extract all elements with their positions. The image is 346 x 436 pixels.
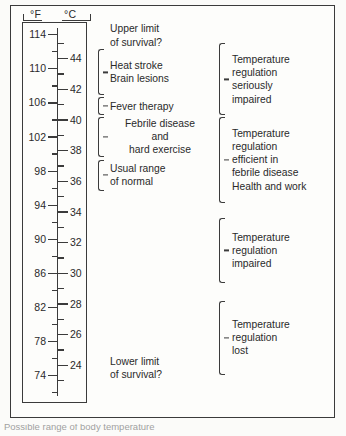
annotation-fever-therapy: Fever therapy (110, 100, 210, 113)
brace-temperature-regulation-impaired (219, 218, 225, 282)
annotation-temperature-regulation-seriously-impaire: Temperature regulation seriously impaire… (232, 53, 332, 106)
tick-f-minor-96 (52, 188, 58, 189)
tick-f-110 (48, 68, 58, 69)
tick-c-42 (58, 89, 68, 90)
tick-f-minor-72 (52, 392, 58, 393)
tick-label-c-40: 40 (70, 115, 92, 126)
tick-f-90 (48, 239, 58, 240)
annotation-temperature-regulation-impaired: Temperature regulation impaired (232, 231, 332, 271)
tick-label-f-114: 114 (22, 29, 46, 40)
tick-label-f-82: 82 (22, 302, 46, 313)
brace-fever-therapy (98, 97, 104, 115)
tick-c-44 (58, 58, 68, 59)
annotation-heat-stroke-brain-lesions: Heat stroke Brain lesions (110, 59, 210, 85)
tick-f-98 (48, 171, 58, 172)
tick-c-minor-33 (58, 227, 64, 228)
tick-f-minor-100 (52, 153, 58, 154)
tick-c-minor-37 (58, 165, 64, 166)
tick-c-minor-31 (58, 257, 64, 258)
annotation-lower-limit-of-survival: Lower limit of survival? (110, 355, 210, 381)
tick-f-74 (48, 375, 58, 376)
unit-label-fahrenheit: °F (30, 8, 41, 20)
tick-f-86 (48, 273, 58, 274)
tick-c-36 (58, 181, 68, 182)
tick-c-40 (58, 119, 68, 120)
tick-label-f-90: 90 (22, 234, 46, 245)
figure-caption-strip: Possible range of body temperature (0, 424, 346, 436)
tick-c-minor-45 (58, 43, 64, 44)
tick-label-f-94: 94 (22, 200, 46, 211)
brace-temperature-regulation-lost (219, 301, 225, 375)
brace-temperature-regulation-efficient-in-febr (219, 117, 225, 203)
annotation-temperature-regulation-efficient-in-febr: Temperature regulation efficient in febr… (232, 127, 332, 193)
tick-label-c-44: 44 (70, 53, 92, 64)
tick-f-minor-80 (52, 324, 58, 325)
tick-f-114 (48, 34, 58, 35)
tick-f-minor-84 (52, 290, 58, 291)
tick-c-26 (58, 334, 68, 335)
tick-c-minor-27 (58, 319, 64, 320)
tick-c-32 (58, 242, 68, 243)
unit-label-celsius: °C (64, 8, 76, 20)
tick-f-minor-108 (52, 85, 58, 86)
tick-label-c-32: 32 (70, 237, 92, 248)
tick-label-c-34: 34 (70, 207, 92, 218)
tick-f-102 (48, 136, 58, 137)
tick-label-f-98: 98 (22, 166, 46, 177)
tick-label-c-42: 42 (70, 84, 92, 95)
tick-label-f-102: 102 (22, 132, 46, 143)
tick-f-minor-76 (52, 358, 58, 359)
tick-c-minor-41 (58, 104, 64, 105)
annotation-temperature-regulation-lost: Temperature regulation lost (232, 318, 332, 358)
tick-label-f-74: 74 (22, 370, 46, 381)
tick-label-f-86: 86 (22, 268, 46, 279)
header-tick-left (23, 14, 24, 21)
tick-label-f-78: 78 (22, 336, 46, 347)
tick-f-78 (48, 341, 58, 342)
tick-c-30 (58, 273, 68, 274)
brace-heat-stroke-brain-lesions (98, 49, 104, 95)
tick-label-f-110: 110 (22, 63, 46, 74)
tick-c-minor-35 (58, 196, 64, 197)
tick-f-94 (48, 205, 58, 206)
tick-label-c-28: 28 (70, 299, 92, 310)
tick-label-c-38: 38 (70, 145, 92, 156)
tick-label-c-30: 30 (70, 268, 92, 279)
tick-f-minor-92 (52, 222, 58, 223)
annotation-febrile-disease-and-hard-exercise: Febrile disease and hard exercise (110, 117, 210, 157)
header-tick-right (90, 14, 91, 21)
tick-c-minor-29 (58, 288, 64, 289)
tick-c-34 (58, 211, 68, 212)
brace-usual-range-of-normal (98, 160, 104, 191)
tick-label-c-26: 26 (70, 329, 92, 340)
figure-canvas: °F °C 1141101061029894908682787444424038… (0, 0, 346, 436)
tick-c-minor-25 (58, 349, 64, 350)
tick-c-minor-43 (58, 73, 64, 74)
tick-f-106 (48, 102, 58, 103)
tick-c-38 (58, 150, 68, 151)
tick-c-28 (58, 303, 68, 304)
tick-label-c-24: 24 (70, 360, 92, 371)
brace-temperature-regulation-seriously-impaire (219, 43, 225, 115)
tick-c-minor-23 (58, 380, 64, 381)
figure-caption: Possible range of body temperature (4, 424, 155, 432)
brace-febrile-disease-and-hard-exercise (98, 117, 104, 157)
tick-f-minor-112 (52, 51, 58, 52)
tick-label-f-106: 106 (22, 97, 46, 108)
annotation-upper-limit-of-survival: Upper limit of survival? (110, 22, 210, 48)
tick-label-c-36: 36 (70, 176, 92, 187)
tick-c-minor-39 (58, 135, 64, 136)
tick-f-82 (48, 307, 58, 308)
tick-c-24 (58, 365, 68, 366)
annotation-usual-range-of-normal: Usual range of normal (110, 162, 210, 188)
